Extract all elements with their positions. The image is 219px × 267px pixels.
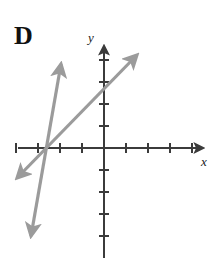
shallow-line — [17, 55, 137, 178]
graph-figure: D — [0, 0, 219, 267]
x-axis-label: x — [201, 155, 207, 168]
steep-line — [31, 64, 61, 236]
y-axis-label: y — [88, 31, 94, 44]
y-axis — [99, 46, 109, 258]
coordinate-plane — [0, 0, 219, 267]
